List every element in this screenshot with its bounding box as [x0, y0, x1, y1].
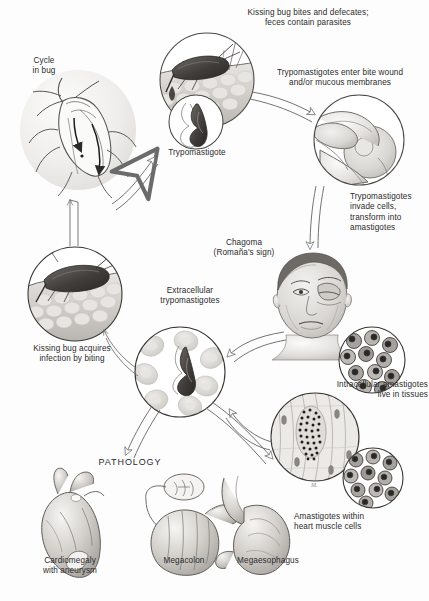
stage-chagoma-child [272, 253, 352, 360]
label-bug-bites-defecates: Kissing bug bites and defecates; feces c… [196, 8, 420, 29]
label-pathology: PATHOLOGY [84, 457, 176, 467]
stage-heart-amastigote [343, 448, 403, 510]
label-trypomastigote: Trypomastigote [152, 148, 242, 158]
chagas-lifecycle-figure: Cycle in bug Kissing bug bites and defec… [0, 0, 429, 601]
artist-signature: M. [311, 482, 318, 488]
label-enter-bite-wound: Trypomastigotes enter bite wound and/or … [252, 68, 428, 89]
label-bug-acquires: Kissing bug acquires infection by biting [16, 344, 128, 365]
label-invade-cells: Trypomastigotes invade cells, transform … [350, 192, 429, 234]
label-intracellular: Intracellular amastigotes live in tissue… [278, 380, 428, 401]
label-extracellular: Extracellular trypomastigotes [144, 286, 236, 307]
label-chagoma: Chagoma (Romaña's sign) [196, 238, 292, 259]
label-cardiomegaly: Cardiomegaly with aneurysm [22, 556, 118, 577]
stage-bug-cycle [20, 70, 136, 198]
stage-bug-acquires [28, 247, 122, 341]
label-cycle-in-bug: Cycle in bug [16, 56, 72, 77]
stage-extracellular [131, 327, 227, 420]
label-megaesophagus: Megaesophagus [222, 556, 314, 566]
stage-eye-inoculation [314, 95, 408, 189]
label-amastigotes-heart: Amastigotes within heart muscle cells [294, 512, 418, 533]
label-megacolon: Megacolon [140, 556, 228, 566]
stage-trypomastigote-inset [169, 95, 223, 149]
